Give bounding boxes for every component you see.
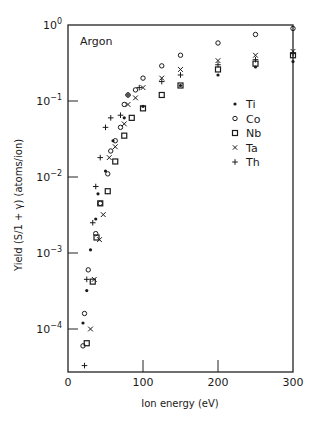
yield-vs-energy-chart: 10010−110−210−310−4 0100200300 Argon Ion… [0,0,321,435]
x-tick-label: 300 [283,376,304,389]
x-tick-label: 100 [133,376,154,389]
y-tick-label: 10−2 [36,169,62,184]
x-axis-label: Ion energy (eV) [141,398,219,409]
legend-label: Nb [246,127,261,140]
legend-item-ta: Ta [233,142,258,155]
legend-item-co: Co [233,113,261,126]
legend-item-th: Th [232,156,260,169]
y-axis-ticks: 10010−110−210−310−4 [36,17,78,336]
legend-label: Ti [245,98,255,111]
legend: TiCoNbTaTh [232,98,261,169]
legend-label: Ta [245,142,258,155]
x-axis-ticks: 0100200300 [65,360,304,389]
y-tick-label: 10−3 [36,245,62,260]
annotation-argon: Argon [80,35,113,48]
legend-label: Th [245,156,260,169]
x-tick-label: 0 [65,376,72,389]
y-axis-label: Yield (S/1 + γ) (atoms/ion) [13,139,24,272]
y-tick-label: 10−4 [36,321,62,336]
series-co [81,26,295,348]
y-tick-label: 100 [43,17,62,32]
data-points [81,26,296,368]
x-tick-label: 200 [208,376,229,389]
series-ta [88,49,295,331]
legend-item-nb: Nb [233,127,262,140]
y-tick-label: 10−1 [36,93,62,108]
series-ti [81,60,294,325]
series-th [82,51,296,369]
legend-item-ti: Ti [233,98,255,111]
legend-label: Co [246,113,261,126]
series-nb [84,53,295,346]
